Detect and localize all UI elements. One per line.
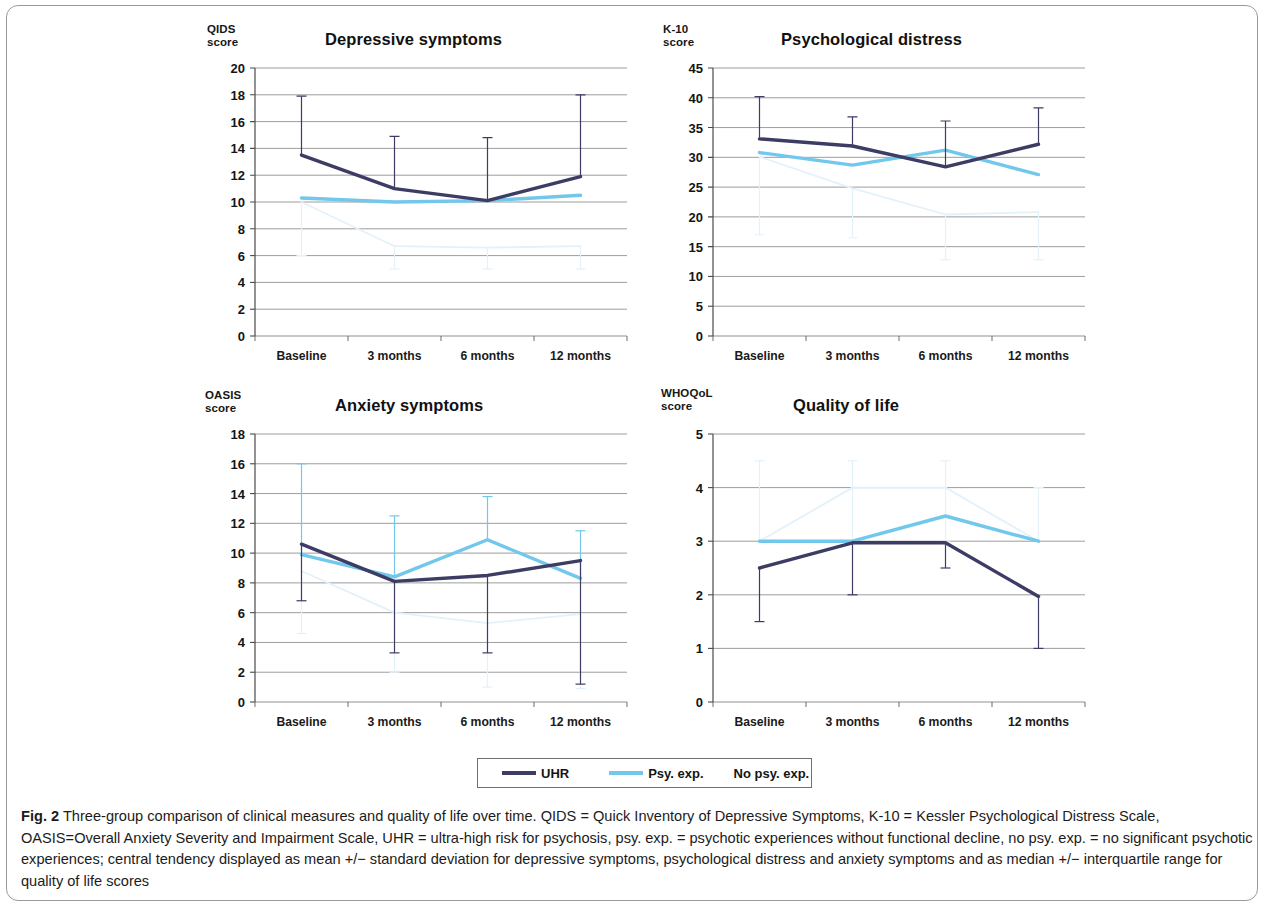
y-tick-label: 2 xyxy=(215,665,245,680)
chart-panel-depressive-symptoms: QIDS score Depressive symptoms 024681012… xyxy=(193,18,643,370)
y-tick-label: 0 xyxy=(673,695,703,710)
y-tick-label: 0 xyxy=(673,329,703,344)
legend: UHR Psy. exp. No psy. exp. xyxy=(477,758,812,788)
legend-label-uhr: UHR xyxy=(541,766,569,781)
y-tick-label: 35 xyxy=(673,120,703,135)
y-tick-label: 20 xyxy=(673,209,703,224)
figure-caption-text: Three-group comparison of clinical measu… xyxy=(21,808,1253,889)
y-tick-label: 14 xyxy=(215,141,245,156)
plot-area xyxy=(193,384,643,736)
x-tick-label: 6 months xyxy=(918,715,972,729)
series-line-no-psy-exp- xyxy=(760,157,1039,215)
y-tick-label: 2 xyxy=(215,302,245,317)
y-tick-label: 15 xyxy=(673,239,703,254)
x-tick-label: 3 months xyxy=(825,349,879,363)
x-tick-label: 12 months xyxy=(550,715,611,729)
y-tick-label: 0 xyxy=(215,329,245,344)
y-tick-label: 8 xyxy=(215,575,245,590)
series-line-uhr xyxy=(760,543,1039,597)
chart-panel-quality-of-life: WHOQoL score Quality of life 012345Basel… xyxy=(651,384,1101,736)
y-tick-label: 4 xyxy=(673,480,703,495)
y-tick-label: 25 xyxy=(673,180,703,195)
y-tick-label: 2 xyxy=(673,587,703,602)
y-tick-label: 10 xyxy=(215,195,245,210)
series-line-no-psy-exp- xyxy=(760,488,1039,542)
plot-area xyxy=(193,18,643,370)
y-tick-label: 12 xyxy=(215,516,245,531)
x-tick-label: 12 months xyxy=(1008,715,1069,729)
x-tick-label: Baseline xyxy=(734,715,784,729)
y-tick-label: 18 xyxy=(215,427,245,442)
x-tick-label: 12 months xyxy=(550,349,611,363)
y-tick-label: 16 xyxy=(215,114,245,129)
legend-swatch-psy-exp xyxy=(609,771,643,774)
x-tick-label: Baseline xyxy=(276,715,326,729)
legend-swatch-uhr xyxy=(502,771,536,774)
y-tick-label: 4 xyxy=(215,635,245,650)
legend-item-no-psy-exp: No psy. exp. xyxy=(734,766,810,781)
x-tick-label: 6 months xyxy=(918,349,972,363)
y-tick-label: 4 xyxy=(215,275,245,290)
y-tick-label: 5 xyxy=(673,299,703,314)
y-tick-label: 1 xyxy=(673,641,703,656)
y-tick-label: 6 xyxy=(215,248,245,263)
chart-svg xyxy=(193,384,643,736)
x-tick-label: 3 months xyxy=(367,715,421,729)
plot-area xyxy=(651,384,1101,736)
legend-label-no-psy-exp: No psy. exp. xyxy=(734,766,810,781)
plot-area xyxy=(651,18,1101,370)
y-tick-label: 3 xyxy=(673,534,703,549)
y-tick-label: 12 xyxy=(215,168,245,183)
y-tick-label: 40 xyxy=(673,90,703,105)
series-line-psy-exp- xyxy=(760,516,1039,541)
y-tick-label: 10 xyxy=(673,269,703,284)
series-line-psy-exp- xyxy=(302,540,581,579)
legend-item-uhr: UHR xyxy=(502,766,569,781)
x-tick-label: 12 months xyxy=(1008,349,1069,363)
series-line-no-psy-exp- xyxy=(302,202,581,248)
y-tick-label: 30 xyxy=(673,150,703,165)
x-tick-label: Baseline xyxy=(276,349,326,363)
y-tick-label: 20 xyxy=(215,61,245,76)
y-tick-label: 10 xyxy=(215,546,245,561)
x-tick-label: 6 months xyxy=(460,715,514,729)
y-tick-label: 45 xyxy=(673,61,703,76)
legend-item-psy-exp: Psy. exp. xyxy=(609,766,703,781)
y-tick-label: 6 xyxy=(215,605,245,620)
legend-label-psy-exp: Psy. exp. xyxy=(648,766,703,781)
figure-frame: QIDS score Depressive symptoms 024681012… xyxy=(6,5,1258,901)
chart-svg xyxy=(651,18,1101,370)
figure-label: Fig. 2 xyxy=(21,808,59,824)
x-tick-label: 3 months xyxy=(367,349,421,363)
x-tick-label: Baseline xyxy=(734,349,784,363)
error-bars-no-psy-exp- xyxy=(297,202,586,269)
chart-svg xyxy=(193,18,643,370)
chart-svg xyxy=(651,384,1101,736)
y-tick-label: 8 xyxy=(215,221,245,236)
error-bars-no-psy-exp- xyxy=(755,157,1044,260)
y-tick-label: 14 xyxy=(215,486,245,501)
x-tick-label: 3 months xyxy=(825,715,879,729)
chart-panel-anxiety-symptoms: OASIS score Anxiety symptoms 02468101214… xyxy=(193,384,643,736)
figure-caption: Fig. 2 Three-group comparison of clinica… xyxy=(21,806,1253,892)
y-tick-label: 16 xyxy=(215,456,245,471)
x-tick-label: 6 months xyxy=(460,349,514,363)
y-tick-label: 5 xyxy=(673,427,703,442)
y-tick-label: 0 xyxy=(215,695,245,710)
chart-panel-psychological-distress: K-10 score Psychological distress 051015… xyxy=(651,18,1101,370)
series-line-uhr xyxy=(302,155,581,201)
y-tick-label: 18 xyxy=(215,87,245,102)
